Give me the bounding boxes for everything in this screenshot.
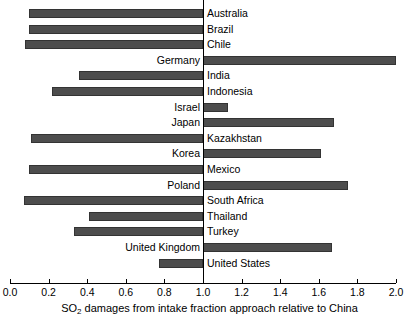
bar-japan[interactable] xyxy=(203,118,334,127)
bar-indonesia[interactable] xyxy=(52,87,203,96)
plot-area: AustraliaBrazilChileGermanyIndiaIndonesi… xyxy=(0,0,419,281)
bar-row: Israel xyxy=(0,102,419,118)
bar-label-israel: Israel xyxy=(174,102,200,113)
bar-row: Kazakhstan xyxy=(0,133,419,149)
bar-label-united-kingdom: United Kingdom xyxy=(125,242,200,253)
x-tick-0.2 xyxy=(49,279,50,283)
bar-row: Germany xyxy=(0,55,419,71)
bar-row: Thailand xyxy=(0,211,419,227)
x-tick-1.6 xyxy=(319,279,320,283)
bar-row: Poland xyxy=(0,180,419,196)
bar-label-poland: Poland xyxy=(167,180,200,191)
bar-label-korea: Korea xyxy=(172,148,200,159)
x-tick-label-0.2: 0.2 xyxy=(41,286,56,298)
bar-row: Australia xyxy=(0,8,419,24)
bar-row: Mexico xyxy=(0,164,419,180)
bar-row: Brazil xyxy=(0,24,419,40)
bar-label-germany: Germany xyxy=(157,55,200,66)
bar-label-kazakhstan: Kazakhstan xyxy=(207,133,262,144)
bar-united-states[interactable] xyxy=(159,259,203,268)
bar-row: Chile xyxy=(0,39,419,55)
bar-row: United Kingdom xyxy=(0,242,419,258)
bar-germany[interactable] xyxy=(203,56,396,65)
bar-label-mexico: Mexico xyxy=(207,164,240,175)
bar-row: Indonesia xyxy=(0,86,419,102)
chart-container: AustraliaBrazilChileGermanyIndiaIndonesi… xyxy=(0,0,419,321)
bar-india[interactable] xyxy=(79,71,203,80)
bar-label-brazil: Brazil xyxy=(207,24,233,35)
bar-row: United States xyxy=(0,258,419,274)
bar-row: India xyxy=(0,70,419,86)
bar-south-africa[interactable] xyxy=(24,196,203,205)
bar-turkey[interactable] xyxy=(74,227,203,236)
bar-poland[interactable] xyxy=(203,181,348,190)
bar-label-united-states: United States xyxy=(207,258,270,269)
bar-row: Turkey xyxy=(0,226,419,242)
x-tick-0.4 xyxy=(87,279,88,283)
bar-row: Japan xyxy=(0,117,419,133)
bar-label-australia: Australia xyxy=(207,8,248,19)
bar-brazil[interactable] xyxy=(29,25,203,34)
bar-united-kingdom[interactable] xyxy=(203,243,332,252)
bar-label-japan: Japan xyxy=(171,117,200,128)
x-tick-label-0.0: 0.0 xyxy=(3,286,18,298)
x-axis-title: SO2 damages from intake fraction approac… xyxy=(0,302,419,314)
x-tick-2.0 xyxy=(396,279,397,283)
x-tick-1.2 xyxy=(242,279,243,283)
bar-mexico[interactable] xyxy=(29,165,203,174)
x-tick-1.0 xyxy=(203,279,204,283)
x-tick-0.0 xyxy=(10,279,11,283)
x-tick-0.8 xyxy=(164,279,165,283)
bar-label-south-africa: South Africa xyxy=(207,195,264,206)
bar-label-turkey: Turkey xyxy=(207,226,239,237)
bar-row: South Africa xyxy=(0,195,419,211)
bar-row: Korea xyxy=(0,148,419,164)
x-axis-line xyxy=(10,283,396,284)
x-tick-1.4 xyxy=(280,279,281,283)
bar-kazakhstan[interactable] xyxy=(31,134,203,143)
x-tick-label-2.0: 2.0 xyxy=(389,286,404,298)
x-tick-label-1.2: 1.2 xyxy=(234,286,249,298)
bar-thailand[interactable] xyxy=(89,212,203,221)
x-tick-label-0.8: 0.8 xyxy=(157,286,172,298)
x-tick-1.8 xyxy=(357,279,358,283)
bar-label-thailand: Thailand xyxy=(207,211,247,222)
x-tick-label-0.4: 0.4 xyxy=(80,286,95,298)
bar-chile[interactable] xyxy=(25,40,203,49)
bar-label-india: India xyxy=(207,70,230,81)
x-tick-label-1.8: 1.8 xyxy=(350,286,365,298)
bar-label-chile: Chile xyxy=(207,39,231,50)
x-tick-label-1.6: 1.6 xyxy=(311,286,326,298)
reference-line-1.0 xyxy=(203,0,204,281)
bar-israel[interactable] xyxy=(203,103,228,112)
bar-australia[interactable] xyxy=(29,9,203,18)
bar-korea[interactable] xyxy=(203,149,321,158)
x-tick-label-1.4: 1.4 xyxy=(273,286,288,298)
x-tick-label-1.0: 1.0 xyxy=(196,286,211,298)
bar-label-indonesia: Indonesia xyxy=(207,86,253,97)
x-tick-0.6 xyxy=(126,279,127,283)
x-tick-label-0.6: 0.6 xyxy=(118,286,133,298)
